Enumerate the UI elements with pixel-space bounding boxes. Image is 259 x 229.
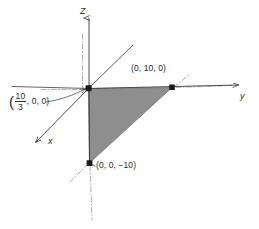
z-axis-label: Z <box>80 7 86 16</box>
y-axis-negative-line <box>12 87 89 89</box>
z-axis-negative-segment <box>89 88 90 163</box>
point-y-intercept <box>169 84 175 90</box>
point-z-intercept <box>87 160 93 166</box>
y-axis-label: y <box>240 92 245 101</box>
fraction-numerator: 10 <box>15 92 27 101</box>
y-intercept-label: (0, 10, 0) <box>131 64 166 73</box>
fraction-denominator: 3 <box>17 102 24 111</box>
construction-lines <box>41 34 232 220</box>
x-intercept-remainder: , 0, 0) <box>27 97 49 106</box>
leader-line-x-intercept <box>46 89 85 102</box>
x-intercept-fraction: 10 3 <box>15 92 27 111</box>
figure-canvas <box>0 0 259 229</box>
z-intercept-label: (0, 0, −10) <box>96 161 136 170</box>
x-intercept-label: ( 10 3 , 0, 0) <box>9 92 49 111</box>
point-x-intercept <box>86 85 92 91</box>
x-axis-back-line <box>89 45 133 88</box>
x-intercept-open-paren: ( <box>9 94 14 109</box>
x-axis-label: x <box>48 137 53 146</box>
coordinate-plane-figure: Z y x (0, 10, 0) (0, 0, −10) ( 10 3 , 0,… <box>0 0 259 229</box>
dashdot-z-below <box>90 166 92 220</box>
dashdot-diagonal-lower-left <box>70 164 88 182</box>
dashdot-diagonal-upper-right <box>174 74 190 87</box>
plane-triangle <box>89 88 173 164</box>
